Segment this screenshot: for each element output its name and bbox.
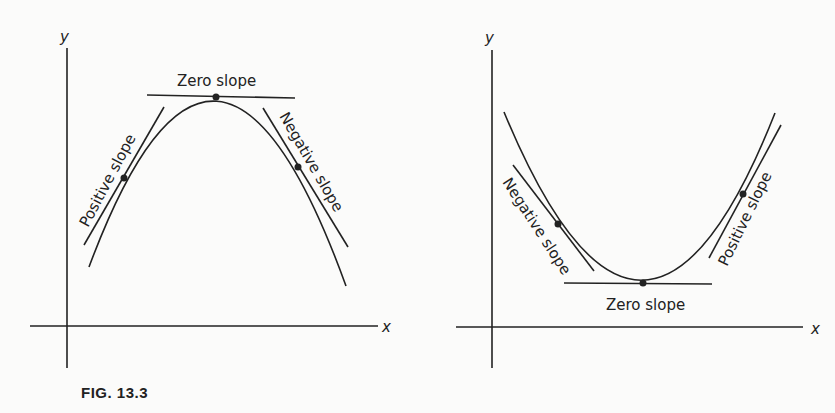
x-axis-label: x [381,318,391,336]
tangent-negative [263,108,348,247]
label-negative-slope: Negative slope [276,109,348,215]
tangent-zero [564,283,712,284]
label-zero-slope: Zero slope [177,72,256,90]
y-axis-label: y [59,28,70,46]
tangent-zero [147,95,295,98]
point-negative-slope [295,164,302,171]
x-axis-label: x [810,320,820,338]
points-minimum [555,191,747,287]
point-zero-slope [640,280,647,287]
point-positive-slope [121,175,128,182]
figure-canvas: y x Zero slope Positive slope Negative s… [0,0,835,413]
point-negative-slope [555,221,562,228]
label-positive-slope: Positive slope [76,131,140,230]
points-maximum [121,94,302,182]
figure-caption: FIG. 13.3 [81,384,148,401]
label-zero-slope: Zero slope [606,296,685,314]
concave-curve [89,101,346,286]
point-zero-slope [213,94,220,101]
y-axis-label: y [484,29,495,47]
